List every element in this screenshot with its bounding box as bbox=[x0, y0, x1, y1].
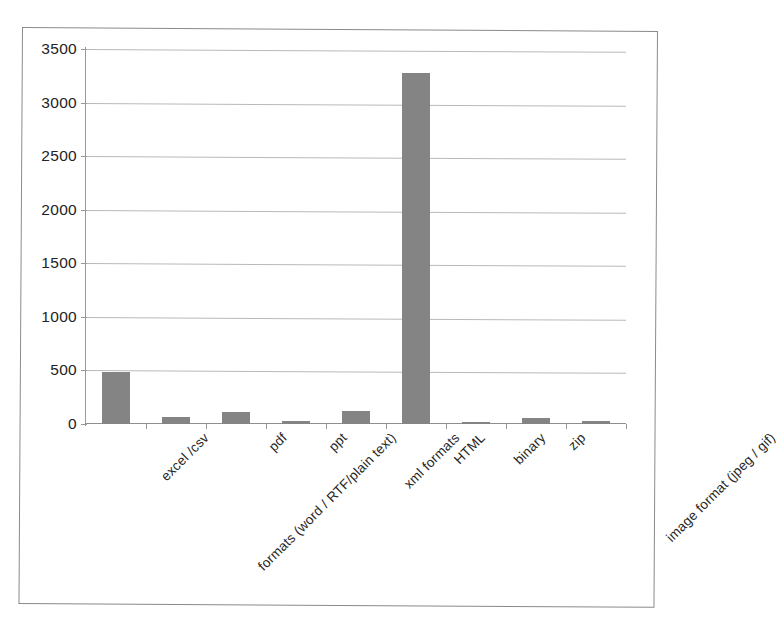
y-axis-tick bbox=[81, 103, 87, 104]
gridline bbox=[86, 49, 626, 53]
x-axis-category-label: ppt bbox=[326, 430, 350, 454]
x-axis-tick bbox=[626, 424, 627, 429]
x-axis-tick bbox=[266, 424, 267, 429]
gridline bbox=[86, 156, 626, 160]
y-axis-tick bbox=[81, 424, 87, 425]
y-axis-tick-label: 1500 bbox=[41, 254, 77, 272]
y-axis-tick-label: 3000 bbox=[41, 94, 77, 112]
x-axis-category-label: xml formats bbox=[401, 430, 462, 491]
y-axis-tick bbox=[81, 210, 87, 211]
y-axis-tick-label: 0 bbox=[68, 415, 77, 433]
gridline bbox=[86, 210, 626, 214]
x-axis-tick bbox=[386, 424, 387, 429]
x-axis-tick bbox=[146, 424, 147, 429]
y-axis-tick bbox=[81, 370, 87, 371]
bar bbox=[162, 417, 190, 424]
gridline bbox=[86, 103, 626, 107]
bar bbox=[582, 421, 610, 424]
x-axis-category-label: zip bbox=[565, 430, 588, 453]
bar bbox=[402, 73, 430, 424]
x-axis-tick bbox=[206, 424, 207, 429]
y-axis-tick-label: 3500 bbox=[41, 40, 77, 58]
x-axis-category-labels: excel /csvformats (word / RTF/plain text… bbox=[86, 430, 646, 620]
gridline bbox=[86, 263, 626, 267]
gridline bbox=[86, 370, 626, 374]
y-axis-tick bbox=[81, 263, 87, 264]
y-axis-tick-label: 1000 bbox=[41, 308, 77, 326]
x-axis-tick bbox=[326, 424, 327, 429]
x-axis-tick bbox=[446, 424, 447, 429]
x-axis-category-label: binary bbox=[511, 430, 548, 467]
y-axis-tick bbox=[81, 317, 87, 318]
bar bbox=[102, 372, 130, 425]
gridline bbox=[86, 317, 626, 321]
bar bbox=[342, 411, 370, 424]
x-axis-category-label: pdf bbox=[266, 430, 290, 454]
bar bbox=[222, 412, 250, 424]
x-axis-tick bbox=[566, 424, 567, 429]
y-axis-tick bbox=[81, 49, 87, 50]
x-axis-category-label: image format (jpeg / gif) bbox=[663, 430, 778, 545]
y-axis-tick-label: 2000 bbox=[41, 201, 77, 219]
plot-area: 0500100015002000250030003500 bbox=[86, 49, 626, 424]
y-axis-tick-label: 500 bbox=[50, 361, 77, 379]
y-axis-tick-label: 2500 bbox=[41, 147, 77, 165]
x-axis-tick bbox=[506, 424, 507, 429]
x-axis-category-label: excel /csv bbox=[158, 430, 212, 484]
bar bbox=[522, 418, 550, 424]
y-axis-tick bbox=[81, 156, 87, 157]
bar bbox=[282, 421, 310, 424]
bar bbox=[462, 422, 490, 424]
